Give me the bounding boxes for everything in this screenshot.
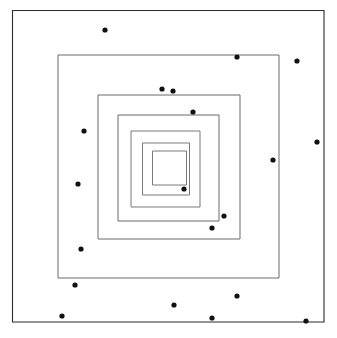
concentric-squares-scatter-plot (0, 0, 337, 338)
scatter-point (234, 54, 239, 59)
scatter-point (303, 318, 308, 323)
scatter-point (314, 139, 319, 144)
scatter-point (221, 213, 226, 218)
scatter-point (72, 282, 77, 287)
scatter-point (234, 293, 239, 298)
scatter-point (209, 315, 214, 320)
scatter-point (171, 302, 176, 307)
scatter-point (190, 109, 195, 114)
scatter-point (102, 27, 107, 32)
scatter-point (59, 313, 64, 318)
scatter-point (159, 86, 164, 91)
scatter-point (75, 181, 80, 186)
figure-canvas (0, 0, 337, 338)
scatter-point (209, 225, 214, 230)
scatter-point (81, 128, 86, 133)
scatter-point (170, 88, 175, 93)
plot-background (0, 0, 337, 338)
scatter-point (294, 58, 299, 63)
scatter-point (78, 246, 83, 251)
scatter-point (181, 186, 186, 191)
scatter-point (270, 157, 275, 162)
